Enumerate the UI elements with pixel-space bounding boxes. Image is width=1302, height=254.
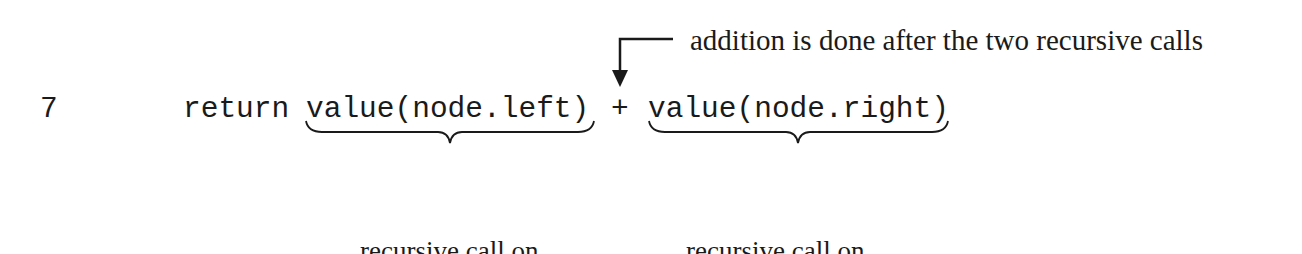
right-underbrace-icon [649,121,948,143]
right-brace-label-line1: recursive call on [686,234,868,254]
left-brace-label-line1: recursive call on [360,234,538,254]
addition-annotation: addition is done after the two recursive… [690,26,1203,55]
right-brace-label: recursive call on the right subtree. [686,166,868,254]
left-underbrace-icon [306,121,594,143]
arrow-icon [612,39,673,87]
left-brace-label: recursive call on the left subtree [360,166,538,254]
